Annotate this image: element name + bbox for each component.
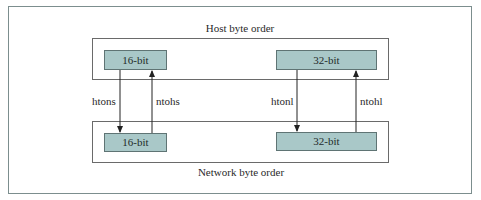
htonl-label: htonl: [271, 95, 294, 107]
htons-label: htons: [92, 95, 116, 107]
ntohl-arrowhead-icon: [353, 70, 359, 77]
ntohs-label: ntohs: [156, 95, 180, 107]
ntohl-label: ntohl: [360, 95, 383, 107]
conversion-arrows: [0, 0, 481, 200]
htonl-arrowhead-icon: [294, 125, 300, 132]
ntohs-arrowhead-icon: [149, 70, 155, 77]
htons-arrowhead-icon: [117, 126, 123, 133]
